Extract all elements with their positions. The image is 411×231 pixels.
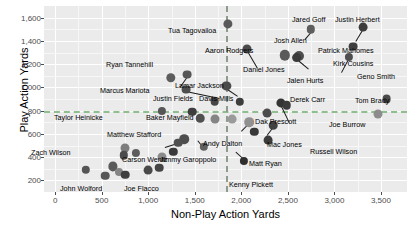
x-tick-label: 3,000 <box>324 196 344 205</box>
data-point[interactable] <box>374 109 383 118</box>
data-point-label: Derek Carr <box>290 96 325 103</box>
x-tick-mark <box>334 192 335 195</box>
x-tick-label: 2,000 <box>231 196 251 205</box>
y-tick-mark <box>41 157 44 158</box>
data-point-label: Joe Burrow <box>329 121 365 128</box>
data-point-label: Kirk Cousins <box>333 60 373 67</box>
data-point-label: Dak Prescott <box>255 118 296 125</box>
data-point[interactable] <box>228 115 237 124</box>
data-point-label: Geno Smith <box>357 73 395 80</box>
x-tick-mark <box>241 192 242 195</box>
data-point-label: Andy Dalton <box>203 140 242 147</box>
y-tick-mark <box>41 180 44 181</box>
data-point-label: Aaron Rodgers <box>205 47 253 54</box>
data-point[interactable] <box>183 70 192 79</box>
data-point[interactable] <box>121 170 130 179</box>
data-point-label: Tom Brady <box>355 97 389 104</box>
data-point-label: Baker Mayfield <box>146 114 194 121</box>
scatter-chart: Tua TagovailoaJared GoffJustin HerbertAa… <box>0 0 411 231</box>
data-point-label: Mac Jones <box>267 141 302 148</box>
data-point-label: Justin Fields <box>153 95 193 102</box>
y-tick-label: 200 <box>28 176 41 185</box>
x-tick-mark <box>148 192 149 195</box>
data-point-label: Josh Allen <box>274 37 307 44</box>
data-point[interactable] <box>82 166 90 174</box>
y-tick-mark <box>41 41 44 42</box>
data-point-label: Kenny Pickett <box>229 181 273 188</box>
x-axis-title: Non-Play Action Yards <box>44 208 407 220</box>
data-point-label: Jared Goff <box>292 16 325 23</box>
data-point-label: Jimmy Garoppolo <box>160 156 216 163</box>
data-point[interactable] <box>292 53 302 63</box>
data-point-label: Patrick Mahomes <box>318 47 374 54</box>
x-tick-label: 1,500 <box>185 196 205 205</box>
data-point[interactable] <box>244 118 254 128</box>
data-point[interactable] <box>236 98 244 106</box>
y-tick-mark <box>41 134 44 135</box>
data-point[interactable] <box>306 25 314 33</box>
data-point-label: Marcus Mariota <box>100 87 150 94</box>
data-point[interactable] <box>211 114 220 123</box>
x-tick-label: 3,500 <box>371 196 391 205</box>
y-tick-mark <box>41 64 44 65</box>
x-tick-label: 500 <box>95 196 108 205</box>
data-point[interactable] <box>196 114 205 123</box>
x-tick-mark <box>102 192 103 195</box>
data-point-label: Matthew Stafford <box>107 131 161 138</box>
data-point-label: Tua Tagovailoa <box>168 27 216 34</box>
data-point-label: Lamar Jackson <box>175 82 224 89</box>
data-point-label: Jalen Hurts <box>287 77 323 84</box>
data-point-label: Ryan Tannehill <box>106 61 153 68</box>
label-leader-line <box>355 30 363 42</box>
data-point-label: Russell Wilson <box>310 148 357 155</box>
data-point[interactable] <box>155 163 164 172</box>
data-point[interactable] <box>240 157 248 165</box>
data-point-label: Matt Ryan <box>249 160 282 167</box>
data-point-label: Taylor Heinicke <box>54 114 103 121</box>
data-point[interactable] <box>101 171 110 180</box>
x-tick-mark <box>195 192 196 195</box>
x-axis-tick-labels: 05001,0001,5002,0002,5003,0003,500 <box>44 196 407 208</box>
y-axis-tick-marks <box>41 6 44 192</box>
x-tick-label: 1,000 <box>138 196 158 205</box>
x-tick-label: 0 <box>53 196 57 205</box>
x-tick-mark <box>55 192 56 195</box>
x-tick-label: 2,500 <box>278 196 298 205</box>
data-point[interactable] <box>223 19 232 28</box>
data-point-label: Daniel Jones <box>243 66 285 73</box>
y-tick-mark <box>41 111 44 112</box>
y-tick-mark <box>41 18 44 19</box>
x-tick-mark <box>288 192 289 195</box>
data-point-label: Justin Herbert <box>335 16 380 23</box>
plot-panel: Tua TagovailoaJared GoffJustin HerbertAa… <box>44 6 407 192</box>
y-tick-mark <box>41 87 44 88</box>
data-point[interactable] <box>174 138 183 147</box>
data-point[interactable] <box>144 165 153 174</box>
data-point-label: Davis Mills <box>199 95 233 102</box>
x-axis-tick-marks <box>44 192 407 195</box>
y-axis-title: Play Action Yards <box>18 15 30 165</box>
x-tick-mark <box>381 192 382 195</box>
